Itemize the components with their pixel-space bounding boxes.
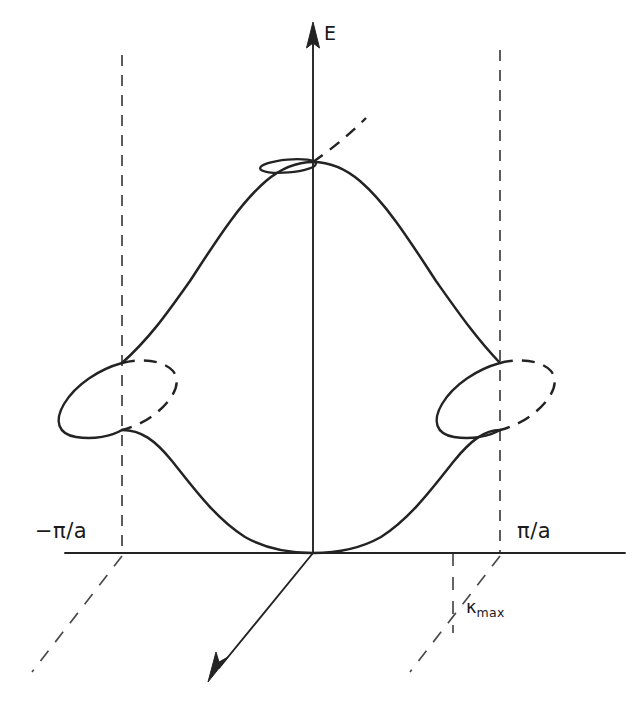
left-zone-boundary-label: −π/a [35,519,87,543]
guide-lines [32,50,500,672]
right-ellipse-solid-arc [437,363,500,438]
left-energy-ellipse-group [59,360,177,438]
band-structure-figure: E −π/a π/a κmax [0,0,643,704]
right-energy-ellipse-group [437,360,555,438]
axes-group [65,22,625,682]
depth-axis-arrowhead [208,652,228,682]
depth-axis-line [219,553,313,668]
upper-band-curve [122,162,500,363]
left-ellipse-hidden-arc [122,360,177,430]
left-ellipse-solid-arc [59,363,122,438]
kappa-max-subscript: max [477,605,505,620]
kappa-max-symbol: κ [466,596,477,617]
right-zone-boundary-label: π/a [517,519,551,543]
apex-dashed-continuation [313,118,366,162]
lower-band-curve [122,430,500,553]
right-ellipse-hidden-arc [500,360,555,430]
diagram-canvas [0,0,643,704]
left-depth-diagonal-dashed-line [32,556,122,672]
band-curves-group [122,118,500,553]
kappa-max-label: κmax [466,596,505,620]
energy-axis-label: E [324,22,337,44]
